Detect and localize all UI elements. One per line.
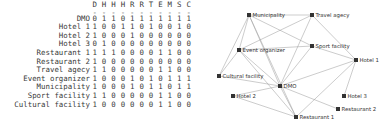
graph-node-label-travel-agecy: Travel agecy: [315, 12, 351, 19]
graph-node-municipality[interactable]: [247, 13, 251, 17]
matrix-cell: 0: [118, 101, 127, 110]
matrix-cell: 0: [109, 101, 118, 110]
matrix-row-label: Cultural facility: [2, 101, 90, 110]
graph-node-cultural-facility[interactable]: [217, 74, 221, 78]
network-graph-panel: MunicipalityTravel agecyEvent organizerS…: [196, 0, 389, 129]
matrix-cell: 0: [99, 101, 108, 110]
graph-node-sport-facility[interactable]: [310, 44, 314, 48]
graph-node-hotel-3[interactable]: [342, 94, 346, 98]
graph-edge-layer: [219, 15, 356, 117]
matrix-row: Hotel 210001000000: [2, 32, 193, 41]
graph-node-label-event-organizer: Event organizer: [243, 47, 286, 54]
graph-node-label-hotel-1: Hotel 1: [360, 57, 379, 63]
graph-node-hotel-2[interactable]: [231, 94, 235, 98]
matrix-cell: 0: [146, 101, 155, 110]
graph-node-label-restaurant-1: Restaurant 1: [300, 114, 335, 120]
figure-root: DHHHRRTEMSC ----------- DMO01101111111Ho…: [0, 0, 389, 129]
matrix-header: DHHHRRTEMSC -----------: [2, 1, 193, 15]
matrix-cell: 0: [175, 101, 184, 110]
graph-node-hotel-1[interactable]: [354, 58, 358, 62]
graph-node-label-hotel-2: Hotel 2: [237, 93, 256, 99]
matrix-row: Hotel 110011010010: [2, 23, 193, 32]
graph-node-layer: MunicipalityTravel agecyEvent organizerS…: [217, 12, 379, 120]
graph-node-label-hotel-3: Hotel 3: [348, 93, 367, 99]
matrix-row: Hotel 301000000000: [2, 40, 193, 49]
graph-edge: [239, 50, 280, 86]
matrix-corner-cell: [2, 1, 90, 10]
graph-node-label-municipality: Municipality: [253, 12, 286, 19]
matrix-cell: 1: [156, 101, 165, 110]
graph-edge: [280, 86, 338, 109]
graph-node-label-sport-facility: Sport facility: [316, 43, 351, 50]
matrix-row: Restaurant 210000000000: [2, 58, 193, 67]
matrix-header-row: DHHHRRTEMSC: [2, 1, 193, 10]
graph-node-label-restaurant-2: Restaurant 2: [342, 106, 377, 112]
matrix-cell: 0: [184, 101, 193, 110]
graph-node-label-cultural-facility: Cultural facility: [223, 73, 265, 80]
graph-edge: [239, 15, 312, 50]
matrix-body: DMO01101111111Hotel 110011010010Hotel 21…: [2, 15, 193, 110]
network-graph-svg: MunicipalityTravel agecyEvent organizerS…: [196, 0, 389, 129]
matrix-row: Cultural facility10000001100: [2, 101, 193, 110]
graph-node-travel-agecy[interactable]: [310, 13, 314, 17]
matrix-cell: 0: [137, 101, 146, 110]
graph-edge: [219, 15, 249, 76]
adjacency-matrix-table: DHHHRRTEMSC ----------- DMO01101111111Ho…: [2, 1, 193, 109]
matrix-cell: 1: [165, 101, 174, 110]
matrix-cell: 1: [90, 101, 99, 110]
matrix-row: Event organizer10001010111: [2, 75, 193, 84]
matrix-row: Restaurant 111100001100: [2, 49, 193, 58]
graph-node-restaurant-1[interactable]: [294, 115, 298, 119]
graph-node-event-organizer[interactable]: [237, 48, 241, 52]
matrix-cell: 0: [128, 101, 137, 110]
graph-node-restaurant-2[interactable]: [336, 107, 340, 111]
matrix-row: DMO01101111111: [2, 15, 193, 24]
adjacency-matrix-panel: DHHHRRTEMSC ----------- DMO01101111111Ho…: [0, 0, 200, 129]
graph-node-label-dmo: DMO: [284, 83, 297, 89]
graph-node-dmo[interactable]: [278, 84, 282, 88]
